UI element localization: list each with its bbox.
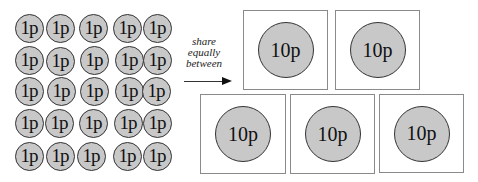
- coin-1p: 1p: [79, 14, 108, 43]
- coin-1p: 1p: [47, 77, 76, 106]
- arrow-right-icon: [184, 81, 224, 82]
- coin-1p: 1p: [46, 14, 75, 43]
- arrowhead-icon: [222, 77, 232, 85]
- share-box-2: 10p: [335, 10, 420, 90]
- coin-10p: 10p: [394, 106, 450, 162]
- coin-1p: 1p: [15, 14, 44, 43]
- coin-1p: 1p: [79, 109, 108, 138]
- coin-1p: 1p: [15, 109, 44, 138]
- coin-10p: 10p: [305, 106, 361, 162]
- coin-1p: 1p: [143, 142, 172, 171]
- coin-1p: 1p: [114, 109, 143, 138]
- coin-1p: 1p: [15, 46, 44, 75]
- coin-1p: 1p: [45, 109, 74, 138]
- coin-1p: 1p: [113, 142, 142, 171]
- label-line-3: between: [176, 58, 232, 69]
- coin-1p: 1p: [77, 142, 106, 171]
- coin-1p: 1p: [80, 46, 109, 75]
- share-equally-label: share equally between: [176, 36, 232, 69]
- coin-1p: 1p: [143, 109, 172, 138]
- coin-1p: 1p: [115, 46, 144, 75]
- share-box-4: 10p: [290, 94, 375, 174]
- coin-10p: 10p: [215, 106, 271, 162]
- coin-1p: 1p: [115, 77, 144, 106]
- coin-1p: 1p: [80, 77, 109, 106]
- coin-10p: 10p: [258, 22, 314, 78]
- coin-1p: 1p: [143, 46, 172, 75]
- share-box-3: 10p: [200, 94, 286, 174]
- share-box-5: 10p: [379, 94, 464, 173]
- coin-1p: 1p: [143, 14, 172, 43]
- coin-1p: 1p: [46, 142, 75, 171]
- share-box-1: 10p: [243, 10, 328, 90]
- coin-1p: 1p: [46, 47, 75, 76]
- coin-1p: 1p: [113, 14, 142, 43]
- coin-1p: 1p: [142, 77, 171, 106]
- coin-1p: 1p: [15, 142, 44, 171]
- coin-1p: 1p: [15, 77, 44, 106]
- coin-10p: 10p: [350, 22, 406, 78]
